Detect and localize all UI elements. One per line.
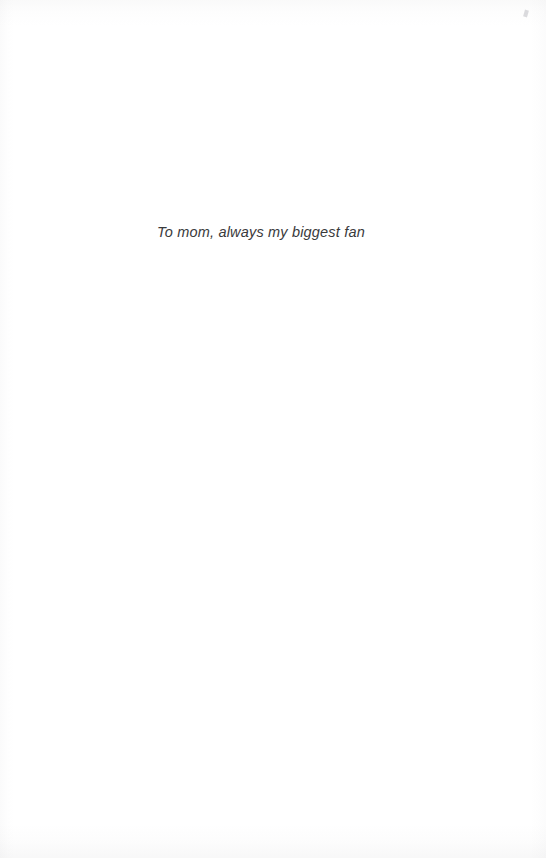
scan-shadow-left: [0, 0, 14, 858]
scan-shadow-bottom: [0, 824, 546, 858]
scan-speck-artifact: [523, 10, 529, 18]
scan-shadow-right: [530, 0, 546, 858]
dedication-page: To mom, always my biggest fan: [0, 0, 546, 858]
dedication-text: To mom, always my biggest fan: [157, 222, 365, 242]
scan-shadow-top: [0, 0, 546, 26]
dedication-block: To mom, always my biggest fan: [0, 222, 546, 242]
